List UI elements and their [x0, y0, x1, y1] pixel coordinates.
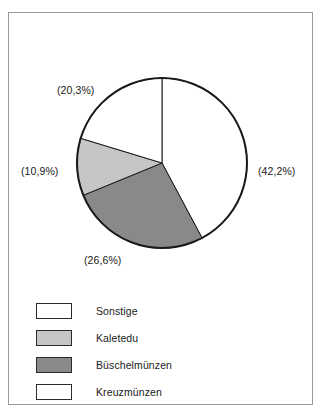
legend-item-kaletedu[interactable]: Kaletedu — [36, 324, 266, 351]
legend-label-bueschelmuenzen: Büschelmünzen — [96, 359, 172, 371]
legend-item-bueschelmuenzen[interactable]: Büschelmünzen — [36, 351, 266, 378]
pie-label-kaletedu: (10,9%) — [21, 165, 58, 177]
pie-label-bueschelmuenzen: (26,6%) — [84, 254, 121, 266]
legend-item-sonstige[interactable]: Sonstige — [36, 297, 266, 324]
legend-label-kaletedu: Kaletedu — [96, 332, 138, 344]
legend-label-kreuzmuenzen: Kreuzmünzen — [96, 386, 162, 398]
legend-item-kreuzmuenzen[interactable]: Kreuzmünzen — [36, 378, 266, 405]
pie-label-sonstige: (20,3%) — [57, 84, 94, 96]
legend: Sonstige Kaletedu Büschelmünzen Kreuzmün… — [36, 297, 266, 405]
figure: (20,3%) (10,9%) (42,2%) (26,6%) Sonstige… — [0, 0, 324, 413]
legend-swatch-kreuzmuenzen — [36, 384, 72, 400]
legend-label-sonstige: Sonstige — [96, 305, 138, 317]
legend-swatch-sonstige — [36, 303, 72, 319]
legend-swatch-kaletedu — [36, 330, 72, 346]
pie-label-kreuzmuenzen: (42,2%) — [258, 165, 295, 177]
legend-swatch-bueschelmuenzen — [36, 357, 72, 373]
